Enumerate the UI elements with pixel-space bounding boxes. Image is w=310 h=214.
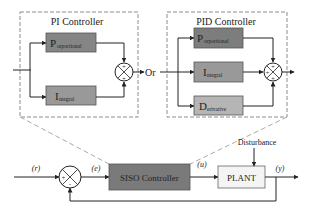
pid-derivative-block: D erivative (194, 96, 243, 115)
siso-controller-label: SISO Controller (120, 173, 179, 183)
pi-p-sub: orportional (57, 43, 82, 49)
reference-label: (r) (32, 164, 41, 173)
or-label: Or (145, 67, 156, 78)
pid-p-to-sum (243, 38, 273, 62)
pi-controller-panel: PI Controller P orportional I ntegral + … (13, 12, 144, 117)
pid-integral-block: I ntegral (194, 62, 243, 82)
pid-d-to-sum (243, 82, 273, 106)
pid-d-main: D (199, 100, 207, 112)
control-label: (u) (197, 160, 207, 169)
disturbance-label: Disturbance (238, 138, 277, 147)
pi-integral-block: I ntegral (46, 86, 96, 105)
pi-p-main: P (50, 37, 56, 49)
plant-label: PLANT (227, 173, 257, 183)
pid-p-main: P (197, 32, 203, 44)
pid-p-sub: orportional (204, 38, 229, 44)
loop-summing-junction: + - (59, 166, 81, 188)
pid-d-sub: erivative (207, 106, 227, 112)
pi-title: PI Controller (51, 16, 104, 27)
pid-i-sub: ntegral (207, 72, 223, 78)
output-label: (y) (276, 164, 285, 173)
pi-projection-line (20, 117, 109, 164)
error-label: (e) (92, 164, 101, 173)
pid-proportional-block: P orportional (194, 28, 243, 48)
pid-controller-panel: PID Controller P orportional I ntegral D… (160, 12, 294, 117)
pi-i-to-sum (96, 82, 124, 97)
pid-title: PID Controller (196, 16, 256, 27)
siso-controller-block: SISO Controller (109, 164, 190, 190)
pi-summing-junction: + + (115, 63, 133, 82)
pi-p-to-sum (96, 43, 124, 62)
control-diagram: PI Controller P orportional I ntegral + … (0, 0, 310, 214)
pid-summing-junction: + + + (264, 63, 282, 82)
pi-i-sub: ntegral (59, 96, 75, 102)
plant-block: PLANT (218, 166, 265, 188)
feedback-loop: (r) + - (e) SISO Controller (u) PLANT Di… (14, 138, 298, 201)
pi-proportional-block: P orportional (46, 33, 96, 52)
